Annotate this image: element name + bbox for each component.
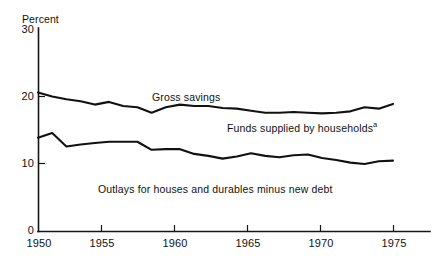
annotation-gross-savings: Gross savings — [152, 92, 220, 103]
annotation-funds-supplied: Funds supplied by householdsa — [227, 121, 377, 133]
annotation-outlays: Outlays for houses and durables minus ne… — [98, 184, 333, 195]
x-tick-label-1950: 1950 — [14, 238, 64, 249]
annotation-funds-supplied-footnote-marker: a — [373, 120, 377, 129]
y-axis-ticks — [39, 97, 46, 164]
chart-figure: Percent 30 20 10 0 1950 1955 1960 1965 1… — [0, 0, 443, 274]
x-tick-label-1970: 1970 — [296, 238, 346, 249]
y-tick-label-30: 30 — [6, 24, 34, 35]
y-tick-label-0: 0 — [6, 225, 34, 236]
y-tick-label-10: 10 — [6, 158, 34, 169]
y-tick-label-20: 20 — [6, 91, 34, 102]
chart-plot-area — [0, 0, 443, 274]
x-tick-label-1975: 1975 — [369, 238, 419, 249]
x-tick-label-1955: 1955 — [77, 238, 127, 249]
x-tick-label-1965: 1965 — [223, 238, 273, 249]
series-line-funds-supplied — [38, 133, 393, 164]
annotation-funds-supplied-text: Funds supplied by households — [227, 122, 373, 134]
x-tick-label-1960: 1960 — [150, 238, 200, 249]
x-axis-ticks — [102, 225, 394, 232]
